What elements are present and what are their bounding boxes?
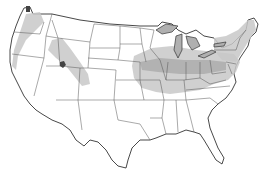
puget-sound-marker — [26, 6, 30, 12]
us-map — [0, 0, 275, 175]
